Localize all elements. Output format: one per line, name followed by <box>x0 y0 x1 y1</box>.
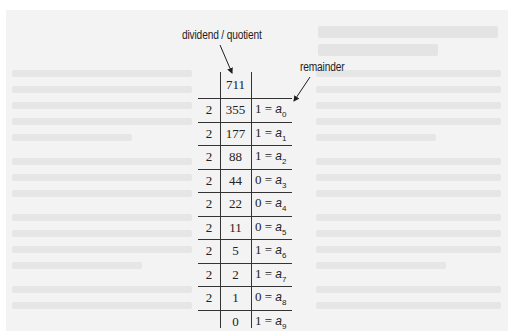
remainder-value: 1 <box>255 313 262 328</box>
quotient-cell: 177 <box>220 126 251 142</box>
remainder-cell: 1 = a1 <box>251 125 292 143</box>
table-row: 2 177 1 = a1 <box>198 122 292 146</box>
remainder-value: 1 <box>255 266 262 281</box>
table-row: 2 11 0 = a5 <box>198 216 292 240</box>
dividend-cell: 711 <box>220 77 251 93</box>
quotient-cell: 44 <box>220 173 251 189</box>
remainder-cell: 0 = a4 <box>251 195 292 213</box>
remainder-cell: 0 = a8 <box>251 289 292 307</box>
remainder-value: 1 <box>255 242 262 257</box>
remainder-index: 0 <box>282 110 286 119</box>
divisor-cell: 2 <box>198 173 220 189</box>
repeated-division-table: 711 2 355 1 = a0 2 177 1 = a1 2 88 1 = a… <box>198 72 292 331</box>
remainder-value: 0 <box>255 195 262 210</box>
table-row: 2 2 1 = a7 <box>198 263 292 287</box>
remainder-cell: 1 = a7 <box>251 266 292 284</box>
remainder-index: 8 <box>282 298 286 307</box>
remainder-index: 5 <box>282 228 286 237</box>
table-row: 0 1 = a9 <box>198 310 292 331</box>
divisor-cell: 2 <box>198 102 220 118</box>
remainder-cell: 0 = a5 <box>251 219 292 237</box>
divisor-cell: 2 <box>198 220 220 236</box>
quotient-cell: 1 <box>220 290 251 306</box>
divisor-cell: 2 <box>198 267 220 283</box>
remainder-index: 7 <box>282 275 286 284</box>
remainder-index: 3 <box>282 181 286 190</box>
table-row: 2 88 1 = a2 <box>198 145 292 169</box>
divisor-cell: 2 <box>198 243 220 259</box>
table-row: 2 5 1 = a6 <box>198 239 292 263</box>
quotient-cell: 0 <box>220 314 251 330</box>
remainder-index: 4 <box>282 204 286 213</box>
remainder-index: 9 <box>282 322 286 331</box>
remainder-value: 1 <box>255 148 262 163</box>
remainder-value: 1 <box>255 101 262 116</box>
remainder-value: 0 <box>255 172 262 187</box>
quotient-cell: 5 <box>220 243 251 259</box>
remainder-index: 6 <box>282 251 286 260</box>
quotient-cell: 11 <box>220 220 251 236</box>
dividend-arrow-icon <box>220 45 232 73</box>
remainder-value: 0 <box>255 219 262 234</box>
divisor-cell: 2 <box>198 196 220 212</box>
remainder-arrow-icon <box>294 77 310 101</box>
remainder-cell: 1 = a9 <box>251 313 292 331</box>
divisor-cell: 2 <box>198 290 220 306</box>
remainder-cell: 1 = a6 <box>251 242 292 260</box>
remainder-cell: 1 = a2 <box>251 148 292 166</box>
divisor-cell: 2 <box>198 126 220 142</box>
quotient-cell: 88 <box>220 149 251 165</box>
remainder-value: 1 <box>255 125 262 140</box>
table-row: 2 22 0 = a4 <box>198 192 292 216</box>
divisor-cell: 2 <box>198 149 220 165</box>
quotient-cell: 2 <box>220 267 251 283</box>
table-row: 2 44 0 = a3 <box>198 169 292 193</box>
remainder-cell: 0 = a3 <box>251 172 292 190</box>
remainder-cell: 1 = a0 <box>251 101 292 119</box>
start-row: 711 <box>198 72 292 98</box>
remainder-value: 0 <box>255 289 262 304</box>
remainder-index: 1 <box>282 134 286 143</box>
quotient-cell: 355 <box>220 102 251 118</box>
table-row: 2 355 1 = a0 <box>198 98 292 122</box>
table-row: 2 1 0 = a8 <box>198 286 292 310</box>
remainder-index: 2 <box>282 157 286 166</box>
quotient-cell: 22 <box>220 196 251 212</box>
